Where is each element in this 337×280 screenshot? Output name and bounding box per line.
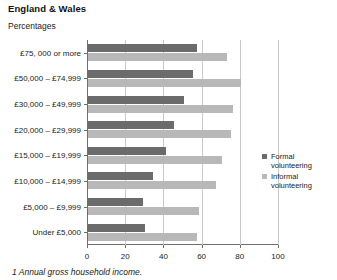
bar-informal: [88, 130, 231, 138]
gridline-100: [278, 40, 279, 245]
bar-informal: [88, 181, 216, 189]
x-tick-mark-20: [125, 245, 126, 248]
bar-formal: [88, 224, 145, 232]
chart-container: England & Wales Percentages 020406080100…: [0, 0, 337, 280]
bar-informal: [88, 233, 197, 241]
bar-informal: [88, 105, 233, 113]
x-tick-label-20: 20: [121, 252, 130, 261]
category-row: £50,000 – £74,999: [87, 66, 278, 92]
category-label: £10,000 – £14,999: [14, 176, 81, 185]
x-tick-label-60: 60: [197, 252, 206, 261]
bar-formal: [88, 147, 166, 155]
legend-label-informal-line1: Informal: [271, 172, 337, 181]
bar-formal: [88, 198, 143, 206]
bar-formal: [88, 44, 197, 52]
legend-item-formal: Formal volunteering: [262, 152, 337, 170]
bar-informal: [88, 156, 222, 164]
y-tick-mark: [84, 78, 87, 79]
legend-label-formal-line1: Formal: [271, 152, 337, 161]
category-label: Under £5,000: [33, 228, 81, 237]
chart-footnote: 1 Annual gross household income.: [12, 267, 142, 277]
y-tick-mark: [84, 181, 87, 182]
bar-formal: [88, 121, 174, 129]
chart-title: England & Wales: [8, 3, 86, 14]
plot-area: 020406080100£75, 000 or more£50,000 – £7…: [87, 40, 278, 245]
category-label: £75, 000 or more: [20, 48, 81, 57]
chart-legend: Formal volunteering Informal volunteerin…: [262, 152, 337, 192]
y-tick-mark: [84, 207, 87, 208]
bar-formal: [88, 172, 153, 180]
y-tick-mark: [84, 104, 87, 105]
bar-informal: [88, 79, 241, 87]
x-tick-label-0: 0: [85, 252, 89, 261]
category-label: £15,000 – £19,999: [14, 151, 81, 160]
legend-item-informal: Informal volunteering: [262, 172, 337, 190]
category-row: £15,000 – £19,999: [87, 143, 278, 169]
bar-formal: [88, 96, 184, 104]
bar-informal: [88, 53, 227, 61]
category-row: Under £5,000: [87, 219, 278, 245]
y-tick-mark: [84, 232, 87, 233]
informal-swatch-icon: [262, 174, 267, 179]
x-tick-label-100: 100: [271, 252, 284, 261]
category-label: £50,000 – £74,999: [14, 74, 81, 83]
x-tick-mark-60: [202, 245, 203, 248]
category-row: £20,000 – £29,999: [87, 117, 278, 143]
category-row: £5,000 – £9,999: [87, 194, 278, 220]
legend-label-formal-line2: volunteering: [271, 161, 337, 170]
formal-swatch-icon: [262, 154, 267, 159]
x-tick-mark-0: [87, 245, 88, 248]
x-tick-mark-80: [240, 245, 241, 248]
category-row: £30,000 – £49,999: [87, 91, 278, 117]
x-tick-mark-40: [163, 245, 164, 248]
category-label: £5,000 – £9,999: [23, 202, 81, 211]
x-tick-label-40: 40: [159, 252, 168, 261]
category-row: £75, 000 or more: [87, 40, 278, 66]
category-label: £20,000 – £29,999: [14, 125, 81, 134]
legend-label-informal-line2: volunteering: [271, 181, 337, 190]
y-tick-mark: [84, 130, 87, 131]
y-tick-mark: [84, 53, 87, 54]
category-row: £10,000 – £14,999: [87, 168, 278, 194]
y-tick-mark: [84, 155, 87, 156]
chart-subtitle: Percentages: [8, 21, 56, 31]
bar-formal: [88, 70, 193, 78]
x-tick-mark-100: [278, 245, 279, 248]
category-label: £30,000 – £49,999: [14, 100, 81, 109]
bar-informal: [88, 207, 199, 215]
x-tick-label-80: 80: [235, 252, 244, 261]
